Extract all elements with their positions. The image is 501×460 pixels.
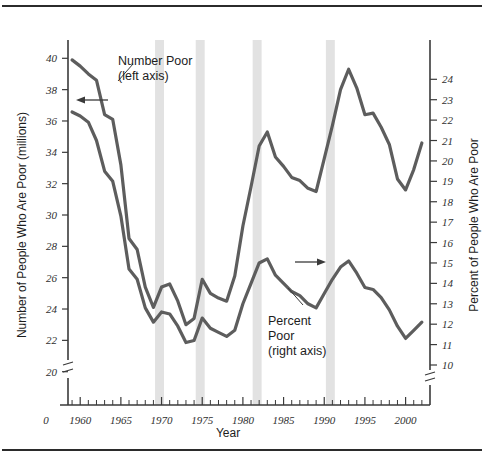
series-percent-poor-line xyxy=(72,112,422,343)
y-right-tick-label: 16 xyxy=(442,237,454,249)
right-axis: 101112131415161718192021222324 xyxy=(425,40,454,405)
right-axis-arrow xyxy=(295,259,326,266)
x-axis-title: Year xyxy=(216,426,240,440)
y-left-axis-title: Number of People Who Are Poor (millions) xyxy=(15,112,29,338)
y-right-tick-label: 24 xyxy=(442,73,454,85)
y-right-tick-label: 10 xyxy=(442,359,454,371)
y-right-tick-label: 23 xyxy=(442,94,454,106)
series-number-poor-line xyxy=(72,60,422,325)
x-tick-label: 1975 xyxy=(191,414,214,426)
x-axis-origin-label: 0 xyxy=(43,414,49,426)
x-tick-label: 2000 xyxy=(395,414,418,426)
annotation-number-poor-line2: (left axis) xyxy=(118,69,169,83)
x-tick-label: 1995 xyxy=(354,414,377,426)
y-left-tick-label: 20 xyxy=(46,366,58,378)
y-right-tick-label: 18 xyxy=(442,196,454,208)
recession-band xyxy=(326,40,335,405)
y-right-tick-label: 22 xyxy=(442,114,454,126)
y-left-tick-label: 24 xyxy=(46,303,58,315)
x-tick-label: 1965 xyxy=(110,414,133,426)
x-tick-label: 1985 xyxy=(273,414,296,426)
y-left-tick-label: 34 xyxy=(45,146,58,158)
y-left-tick-label: 28 xyxy=(46,240,58,252)
y-left-tick-label: 22 xyxy=(46,334,58,346)
y-right-axis-title: Percent of People Who Are Poor xyxy=(467,138,481,311)
y-right-tick-label: 11 xyxy=(442,339,452,351)
annotation-percent-poor-line2: Poor xyxy=(268,329,294,343)
y-right-tick-label: 17 xyxy=(442,216,454,228)
left-axis: 2022242628303234363840 xyxy=(45,40,73,405)
y-left-tick-label: 26 xyxy=(46,272,58,284)
y-left-tick-label: 32 xyxy=(45,178,58,190)
y-left-tick-label: 36 xyxy=(45,115,58,127)
x-axis: 196019651970197519801985199019952000 xyxy=(60,397,430,426)
y-right-tick-label: 12 xyxy=(442,318,454,330)
top-divider-rule xyxy=(2,5,482,7)
y-right-tick-label: 20 xyxy=(442,155,454,167)
recession-band xyxy=(196,40,205,405)
chart-canvas: 2022242628303234363840 10111213141516171… xyxy=(0,0,501,460)
x-tick-label: 1960 xyxy=(69,414,92,426)
x-tick-label: 1990 xyxy=(313,414,336,426)
x-tick-label: 1980 xyxy=(232,414,255,426)
poverty-chart-figure: 2022242628303234363840 10111213141516171… xyxy=(0,0,501,460)
y-right-tick-label: 19 xyxy=(442,175,454,187)
annotation-number-poor-line1: Number Poor xyxy=(118,54,192,68)
y-left-tick-label: 38 xyxy=(45,84,58,96)
data-series-group xyxy=(72,60,422,343)
recession-band xyxy=(155,40,164,405)
y-right-tick-label: 13 xyxy=(442,298,454,310)
y-left-tick-label: 40 xyxy=(46,52,58,64)
annotation-percent-poor-line1: Percent xyxy=(268,314,312,328)
y-right-tick-label: 14 xyxy=(442,277,454,289)
y-right-tick-label: 15 xyxy=(442,257,454,269)
y-left-tick-label: 30 xyxy=(45,209,58,221)
x-tick-label: 1970 xyxy=(151,414,174,426)
recession-band xyxy=(253,40,262,405)
bottom-divider-rule xyxy=(2,449,482,451)
y-right-tick-label: 21 xyxy=(442,135,453,147)
annotation-percent-poor-line3: (right axis) xyxy=(268,344,326,358)
